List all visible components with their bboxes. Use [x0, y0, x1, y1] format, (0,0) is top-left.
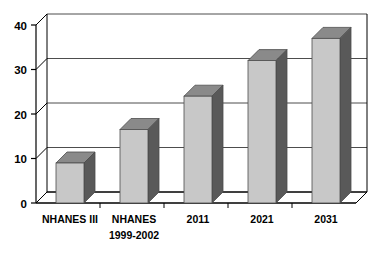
x-tick-label-0-line-0: NHANES III [42, 213, 98, 225]
x-tick-label-2-line-0: 2011 [187, 213, 210, 225]
bar-group-2[interactable] [184, 85, 223, 203]
y-tick-label-0: 0 [21, 198, 27, 210]
bar-front-face-3 [248, 61, 276, 203]
bar-group-1[interactable] [120, 119, 159, 204]
bar-front-face-2 [184, 96, 212, 203]
bar-side-face-4 [340, 27, 351, 203]
y-tick-label-10: 10 [14, 153, 27, 165]
bar-group-4[interactable] [312, 27, 351, 203]
x-tick-label-3-line-0: 2021 [250, 213, 274, 225]
chart-container: 40 30 20 10 0 [0, 0, 387, 263]
bar-front-face-4 [312, 38, 340, 203]
bar-front-face-1 [120, 130, 148, 204]
bar-side-face-1 [148, 119, 159, 204]
y-depth-20 [36, 103, 47, 114]
x-axis-ticks [100, 203, 292, 208]
x-tick-labels: NHANES III NHANES 1999-2002 2011 2021 20… [42, 213, 338, 241]
bar-side-face-3 [276, 50, 287, 203]
y-depth-10 [36, 148, 47, 159]
y-tick-label-30: 30 [14, 64, 27, 76]
bar-chart-3d: 40 30 20 10 0 [0, 0, 387, 263]
y-tick-label-40: 40 [14, 20, 27, 32]
y-tick-label-20: 20 [14, 109, 27, 121]
y-depth-40 [36, 14, 47, 25]
bar-front-face-0 [56, 163, 84, 203]
bar-group-3[interactable] [248, 50, 287, 203]
bar-side-face-2 [212, 85, 223, 203]
y-tick-labels: 40 30 20 10 0 [14, 20, 27, 210]
x-tick-label-4-line-0: 2031 [314, 213, 338, 225]
y-axis [31, 14, 47, 203]
x-tick-label-1-line-0: NHANES [112, 213, 156, 225]
bar-group-0[interactable] [56, 152, 95, 203]
y-depth-30 [36, 59, 47, 70]
x-tick-label-1-line-1: 1999-2002 [109, 229, 159, 241]
